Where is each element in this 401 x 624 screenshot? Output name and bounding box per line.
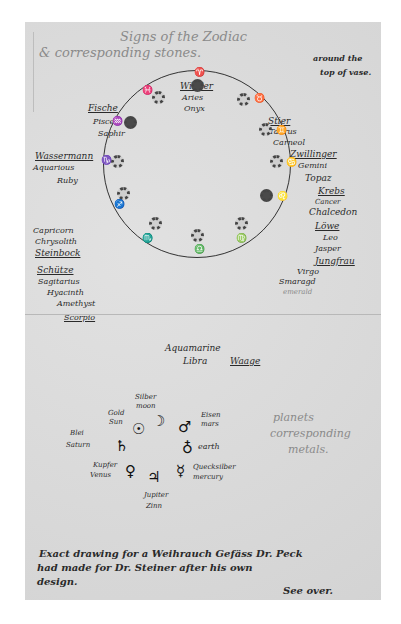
libra-stone: Aquamarine (165, 344, 221, 353)
stone-leo (260, 189, 273, 202)
mars-icon: ♂ (178, 418, 191, 436)
planets-note-1: planets (273, 412, 314, 423)
gemini-latin: Gemini (298, 162, 327, 170)
capricorn-glyph-icon: ♑ (101, 155, 112, 165)
sagittarius-german: Sagitarius (38, 278, 80, 286)
sun-icon: ☉ (132, 420, 145, 438)
aries-glyph-icon: ♈ (194, 67, 205, 77)
stone-pisces (152, 91, 165, 104)
mars-label: mars (201, 421, 219, 428)
manuscript-page: Signs of the Zodiac & corresponding ston… (25, 22, 381, 600)
planets-note-3: metals. (288, 444, 329, 455)
scorpio-latin: Scorpio (64, 314, 95, 322)
virgo-latin: Virgo (297, 268, 319, 276)
libra-latin: Libra (183, 357, 207, 366)
jupiter-metal: Zinn (146, 503, 162, 510)
footer-line-2: had made for Dr. Steiner after his own (37, 563, 252, 573)
pisces-german: Fische (88, 104, 118, 113)
stone-libra (191, 229, 204, 242)
sun-metal: Gold (108, 410, 125, 417)
aquarius-glyph-icon: ♒ (112, 116, 123, 126)
stone-cancer (270, 155, 283, 168)
aquarius-latin: Aquarious (33, 164, 74, 172)
sagittarius-german-label: Schütze (37, 266, 73, 275)
stone-virgo (235, 217, 248, 230)
zodiac-circle: ♈ ♉ ♊ ♋ ♌ ♍ ♎ ♏ ♐ ♑ ♒ ♓ (103, 70, 291, 258)
virgo-stone-alt: emerald (283, 289, 312, 296)
capricorn-german: Steinbock (35, 249, 80, 258)
jupiter-icon: ♃ (147, 468, 160, 486)
stone-aries (191, 79, 204, 92)
saturn-icon: ♄ (115, 437, 128, 455)
jupiter-label: Jupiter (144, 492, 168, 499)
gemini-glyph-icon: ♊ (276, 125, 287, 135)
stone-scorpio (149, 217, 162, 230)
venus-metal: Kupfer (93, 462, 117, 469)
gemini-stone: Topaz (305, 174, 332, 183)
pisces-glyph-icon: ♓ (142, 85, 153, 95)
title-line-1: Signs of the Zodiac (120, 30, 247, 43)
capricorn-latin: Capricorn (33, 227, 74, 235)
saturn-label: Saturn (66, 442, 90, 449)
planets-note-2: corresponding (270, 428, 351, 439)
cancer-german: Krebs (318, 187, 345, 196)
earth-label: earth (198, 443, 220, 451)
moon-label: moon (136, 403, 156, 410)
moon-metal: Silber (135, 394, 156, 401)
scorpio-stone: Amethyst (57, 300, 95, 308)
virgo-glyph-icon: ♍ (236, 233, 247, 243)
scorpio-glyph-icon: ♏ (142, 233, 153, 243)
taurus-glyph-icon: ♉ (254, 93, 265, 103)
stone-gemini (259, 123, 272, 136)
leo-german: Löwe (315, 222, 339, 231)
mars-metal: Eisen (201, 412, 221, 419)
aquarius-stone: Ruby (57, 177, 78, 185)
saturn-metal: Blei (70, 430, 84, 437)
leo-latin: Leo (323, 234, 338, 242)
sagittarius-stone: Hyacinth (47, 289, 84, 297)
venus-label: Venus (90, 472, 111, 479)
gemini-german: Zwillinger (290, 150, 337, 159)
aquarius-german: Wassermann (35, 152, 93, 161)
virgo-german: Jungfrau (315, 257, 355, 266)
leo-glyph-icon: ♌ (277, 191, 288, 201)
note-line-1: around the (313, 54, 362, 62)
capricorn-stone: Chrysolith (35, 238, 77, 246)
libra-german: Waage (230, 357, 260, 366)
note-line-2: top of vase. (320, 68, 371, 76)
cancer-glyph-icon: ♋ (286, 157, 297, 167)
sun-label: Sun (109, 419, 123, 426)
venus-icon: ♀ (125, 462, 136, 480)
virgo-stone: Smaragd (279, 278, 316, 286)
cancer-latin: Cancer (315, 199, 340, 206)
title-line-2: & corresponding stones. (39, 46, 201, 59)
sagittarius-glyph-icon: ♐ (114, 199, 125, 209)
stone-aquarius (124, 116, 137, 129)
stone-capricorn (111, 155, 124, 168)
libra-glyph-icon: ♎ (194, 244, 205, 254)
margin-line (33, 32, 34, 112)
signature: See over. (283, 586, 333, 596)
leo-stone: Jasper (315, 245, 341, 253)
footer-line-1: Exact drawing for a Weihrauch Gefäss Dr.… (39, 549, 303, 559)
stone-taurus (237, 93, 250, 106)
mercury-icon: ☿ (176, 462, 185, 480)
mercury-label: mercury (193, 474, 223, 481)
cancer-stone: Chalcedon (309, 208, 357, 217)
earth-icon: ♁ (182, 439, 193, 457)
mercury-metal: Quecksilber (193, 464, 236, 471)
footer-line-3: design. (37, 577, 78, 587)
moon-icon: ☽ (152, 412, 165, 430)
